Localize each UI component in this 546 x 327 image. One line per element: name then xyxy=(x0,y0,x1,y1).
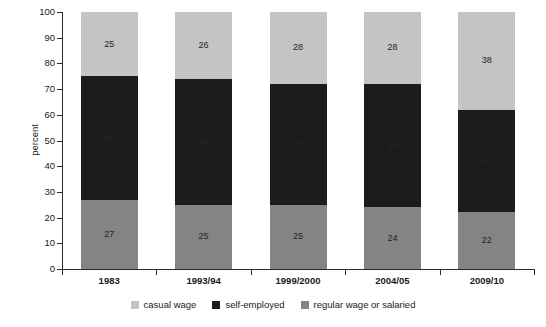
chart-legend: casual wageself-employedregular wage or … xyxy=(0,300,546,310)
bar-1999-2000[interactable]: 284725 xyxy=(270,12,327,269)
y-tick-label: 50 xyxy=(44,136,55,146)
y-tick-label: 60 xyxy=(44,110,55,120)
y-tick-mark xyxy=(57,218,62,219)
y-tick-mark xyxy=(57,243,62,244)
y-tick-mark xyxy=(57,89,62,90)
bar-segment-self[interactable]: 47 xyxy=(270,84,327,205)
bar-segment-regular[interactable]: 25 xyxy=(270,205,327,269)
bar-segment-value: 22 xyxy=(482,236,492,245)
x-axis-label: 1999/2000 xyxy=(276,276,321,286)
bar-segment-casual[interactable]: 28 xyxy=(364,12,421,84)
bar-segment-value: 28 xyxy=(293,43,303,52)
bar-segment-value: 47 xyxy=(293,140,303,149)
legend-swatch-icon xyxy=(212,301,220,309)
bar-segment-value: 27 xyxy=(104,230,114,239)
bar-segment-self[interactable]: 48 xyxy=(364,84,421,207)
x-tick-mark xyxy=(156,269,157,275)
bar-segment-value: 40 xyxy=(482,157,492,166)
bar-segment-value: 26 xyxy=(199,41,209,50)
legend-swatch-icon xyxy=(301,301,309,309)
bar-segment-self[interactable]: 49 xyxy=(175,79,232,205)
y-tick-label: 70 xyxy=(44,84,55,94)
bar-segment-value: 24 xyxy=(387,234,397,243)
bar-segment-value: 49 xyxy=(199,137,209,146)
x-axis-label: 2009/10 xyxy=(470,276,504,286)
bar-segment-regular[interactable]: 25 xyxy=(175,205,232,269)
bar-segment-casual[interactable]: 38 xyxy=(458,12,515,110)
y-tick-label: 0 xyxy=(50,264,55,274)
bar-2009-10[interactable]: 384022 xyxy=(458,12,515,269)
bar-segment-regular[interactable]: 27 xyxy=(81,200,138,269)
legend-label: self-employed xyxy=(225,300,284,310)
bar-segment-value: 48 xyxy=(387,141,397,150)
x-axis-label: 1983 xyxy=(99,276,120,286)
y-tick-label: 40 xyxy=(44,161,55,171)
bar-1993-94[interactable]: 264925 xyxy=(175,12,232,269)
legend-item[interactable]: casual wage xyxy=(131,300,197,310)
plot-area: 0102030405060708090100254827264925284725… xyxy=(62,12,534,269)
bar-segment-value: 28 xyxy=(387,43,397,52)
bar-segment-casual[interactable]: 25 xyxy=(81,12,138,76)
bar-1983[interactable]: 254827 xyxy=(81,12,138,269)
x-tick-mark xyxy=(345,269,346,275)
bar-segment-self[interactable]: 48 xyxy=(81,76,138,199)
legend-item[interactable]: self-employed xyxy=(212,300,284,310)
y-tick-label: 10 xyxy=(44,239,55,249)
y-tick-label: 80 xyxy=(44,59,55,69)
x-tick-mark xyxy=(534,269,535,275)
bar-segment-value: 25 xyxy=(104,40,114,49)
x-axis-line xyxy=(62,269,534,270)
y-tick-label: 100 xyxy=(39,7,55,17)
y-tick-label: 90 xyxy=(44,33,55,43)
y-axis-title: percent xyxy=(29,124,40,156)
y-tick-mark xyxy=(57,38,62,39)
y-tick-mark xyxy=(57,141,62,142)
bar-segment-regular[interactable]: 24 xyxy=(364,207,421,269)
legend-swatch-icon xyxy=(131,301,139,309)
stacked-bar-chart: percent 01020304050607080901002548272649… xyxy=(0,0,546,327)
bar-2004-05[interactable]: 284824 xyxy=(364,12,421,269)
bar-segment-casual[interactable]: 26 xyxy=(175,12,232,79)
x-tick-mark xyxy=(62,269,63,275)
bar-segment-casual[interactable]: 28 xyxy=(270,12,327,84)
x-tick-mark xyxy=(251,269,252,275)
x-axis-label: 2004/05 xyxy=(375,276,409,286)
bar-segment-value: 48 xyxy=(104,133,114,142)
y-tick-label: 20 xyxy=(44,213,55,223)
x-axis-label: 1993/94 xyxy=(186,276,220,286)
bar-segment-self[interactable]: 40 xyxy=(458,110,515,213)
bar-segment-value: 25 xyxy=(293,232,303,241)
bar-segment-value: 25 xyxy=(199,232,209,241)
bar-segment-regular[interactable]: 22 xyxy=(458,212,515,269)
y-tick-mark xyxy=(57,192,62,193)
y-tick-mark xyxy=(57,166,62,167)
y-tick-mark xyxy=(57,63,62,64)
legend-label: regular wage or salaried xyxy=(314,300,416,310)
legend-label: casual wage xyxy=(144,300,197,310)
y-tick-label: 30 xyxy=(44,187,55,197)
y-tick-mark xyxy=(57,115,62,116)
y-tick-mark xyxy=(57,12,62,13)
bar-segment-value: 38 xyxy=(482,56,492,65)
legend-item[interactable]: regular wage or salaried xyxy=(301,300,416,310)
x-tick-mark xyxy=(440,269,441,275)
